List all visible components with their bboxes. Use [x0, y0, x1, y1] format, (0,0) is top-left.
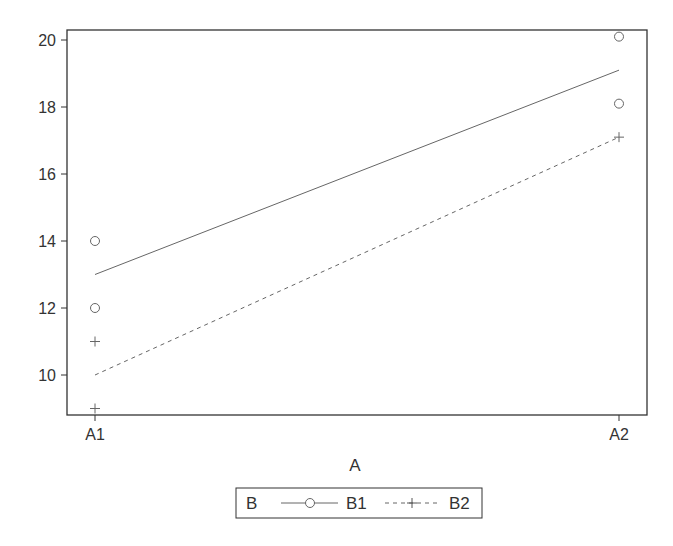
legend-b1-label: B1: [346, 494, 367, 513]
data-point-circle-icon: [91, 304, 100, 313]
x-tick-label: A2: [609, 426, 629, 443]
x-tick-label: A1: [85, 426, 105, 443]
legend-b1-circle-icon: [306, 499, 315, 508]
y-tick-label: 18: [38, 99, 56, 116]
data-point-plus-icon: [90, 337, 100, 347]
plot-border: [67, 30, 647, 415]
y-tick-label: 12: [38, 300, 56, 317]
series-lines: [95, 70, 619, 375]
series-points: [90, 32, 624, 413]
legend-title: B: [246, 494, 257, 513]
y-tick-label: 14: [38, 233, 56, 250]
data-point-plus-icon: [90, 404, 100, 414]
y-tick-label: 10: [38, 367, 56, 384]
plot-frame: [67, 30, 647, 415]
y-tick-label: 16: [38, 166, 56, 183]
y-axis: 101214161820: [38, 32, 67, 384]
interaction-plot: 101214161820 A1A2 A B B1 B2: [0, 0, 673, 546]
y-tick-label: 20: [38, 32, 56, 49]
data-point-circle-icon: [91, 237, 100, 246]
x-axis: A1A2: [85, 415, 629, 443]
legend-b2-plus-icon: [407, 498, 417, 508]
data-point-plus-icon: [614, 132, 624, 142]
x-axis-title: A: [349, 456, 361, 475]
legend-b2-label: B2: [449, 494, 470, 513]
data-point-circle-icon: [615, 32, 624, 41]
legend: B B1 B2: [236, 488, 482, 518]
data-point-circle-icon: [615, 99, 624, 108]
